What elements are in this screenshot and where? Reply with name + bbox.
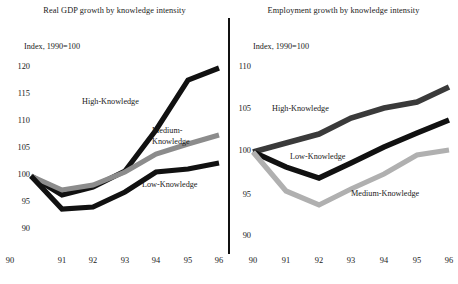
panel-divider [228,18,230,254]
series-label-low-knowledge: Low-Knowledge [290,152,345,163]
series-line-low-knowledge [253,120,449,178]
panel-real-gdp: Real GDP growth by knowledge intensity I… [0,0,229,284]
series-label-high-knowledge: High-Knowledge [82,97,139,108]
dual-line-chart-figure: Real GDP growth by knowledge intensity I… [0,0,458,284]
panel-employment: Employment growth by knowledge intensity… [229,0,458,284]
series-label-low-knowledge: Low-Knowledge [142,180,197,191]
series-line-high-knowledge [253,87,449,152]
series-label-high-knowledge: High-Knowledge [272,104,329,115]
plot-area-employment [229,0,458,284]
series-label-medium-knowledge: Medium-Knowledge [351,189,419,200]
series-label-medium-knowledge: Medium-Knowledge [152,126,206,147]
